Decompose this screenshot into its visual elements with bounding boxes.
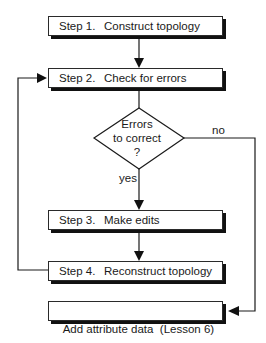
decision-line-3: ? <box>105 145 169 159</box>
step-2-box: Step 2. Check for errors <box>48 68 223 88</box>
step-3-text: Make edits <box>104 211 160 229</box>
step-1-text: Construct topology <box>104 17 200 35</box>
arrowhead-down-icon <box>134 200 144 210</box>
arrowhead-left-icon <box>228 306 239 316</box>
final-step-box: Add attribute data (Lesson 6) <box>48 301 223 321</box>
step-3-box: Step 3. Make edits <box>48 210 223 230</box>
step-3-number: Step 3. <box>59 211 95 229</box>
step-2-number: Step 2. <box>59 69 95 87</box>
step-4-text: Reconstruct topology <box>104 262 212 280</box>
step-1-box: Step 1. Construct topology <box>48 16 223 36</box>
no-label: no <box>212 124 225 137</box>
step-4-box: Step 4. Reconstruct topology <box>48 261 223 281</box>
arrowhead-down-icon <box>134 251 144 261</box>
final-step-text: Add attribute data (Lesson 6) <box>63 323 215 335</box>
connector-loop-back <box>18 78 48 270</box>
arrowhead-right-icon <box>37 73 47 83</box>
yes-label: yes <box>119 172 137 185</box>
step-4-number: Step 4. <box>59 262 95 280</box>
step-1-number: Step 1. <box>59 17 95 35</box>
arrowhead-down-icon <box>134 58 144 68</box>
decision-line-1: Errors <box>105 117 169 131</box>
decision-text: Errors to correct ? <box>105 117 169 159</box>
step-2-text: Check for errors <box>104 69 186 87</box>
decision-line-2: to correct <box>105 131 169 145</box>
